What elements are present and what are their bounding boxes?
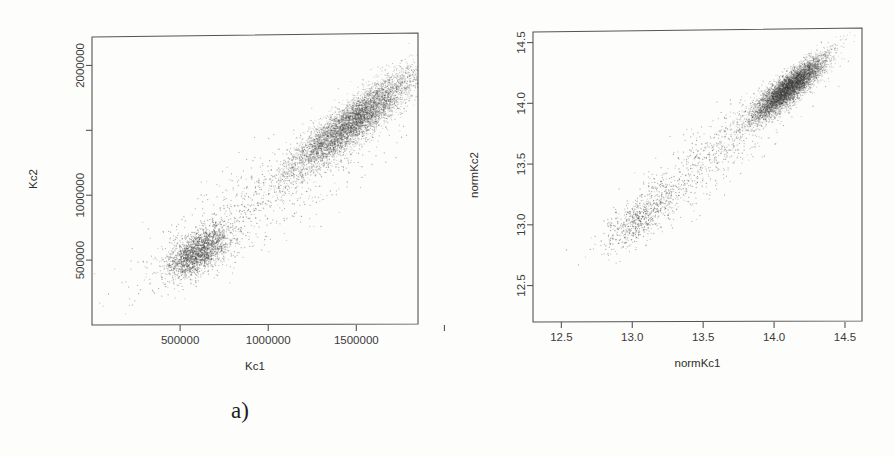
y-tick-label: 500000 <box>74 241 86 279</box>
figure-two-panel-scatter: 50000010000001500000Kc150000010000002000… <box>0 0 894 456</box>
y-axis: 50000010000002000000Kc2 <box>27 43 92 279</box>
y-tick-label: 13.5 <box>515 153 527 175</box>
x-tick-label: 14.0 <box>763 331 785 343</box>
x-tick-label: 13.5 <box>692 331 714 343</box>
x-axis-title: normKc1 <box>674 357 720 369</box>
x-tick-label: 12.5 <box>550 331 572 343</box>
scatter-plot-a: 50000010000001500000Kc150000010000002000… <box>0 0 450 400</box>
y-axis: 12.513.013.514.014.5normKc2 <box>468 31 533 296</box>
scatter-plot-b: 12.513.013.514.014.5normKc112.513.013.51… <box>444 0 894 400</box>
y-tick-label: 2000000 <box>74 43 86 88</box>
x-tick-label: 14.5 <box>834 331 856 343</box>
y-tick-label: 14.5 <box>515 31 527 53</box>
scatter-points <box>94 43 418 315</box>
x-axis-title: Kc1 <box>245 360 265 372</box>
x-tick-label: 1500000 <box>334 334 379 346</box>
panel-a: 50000010000001500000Kc150000010000002000… <box>0 0 450 456</box>
y-tick-label: 1000000 <box>74 173 86 218</box>
y-tick-label: 13.0 <box>515 214 527 236</box>
y-axis-title: normKc2 <box>468 152 480 198</box>
x-tick-label: 500000 <box>161 334 199 346</box>
y-axis-title: Kc2 <box>27 169 39 189</box>
x-tick-label: 13.0 <box>621 331 643 343</box>
scatter-points <box>566 32 856 266</box>
x-axis: 50000010000001500000Kc1 <box>161 325 445 372</box>
panel-a-caption: a) <box>180 398 300 424</box>
y-tick-label: 12.5 <box>515 274 527 296</box>
x-axis: 12.513.013.514.014.5normKc1 <box>550 322 856 369</box>
plot-frame <box>92 33 418 325</box>
x-tick-label: 1000000 <box>246 334 291 346</box>
panel-b: 12.513.013.514.014.5normKc112.513.013.51… <box>444 0 894 456</box>
y-tick-label: 14.0 <box>515 92 527 114</box>
